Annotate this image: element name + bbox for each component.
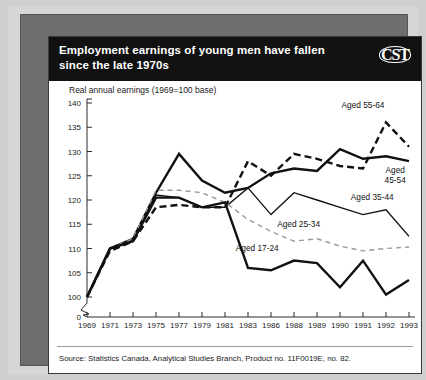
y-tick-label: 100 <box>68 293 82 302</box>
x-tick-label: 1981 <box>216 321 234 330</box>
x-tick-label: 1979 <box>193 321 211 330</box>
x-tick-label: 1977 <box>170 321 188 330</box>
series-annotation: Aged 25-34 <box>277 219 320 229</box>
y-tick-label: 140 <box>68 99 82 108</box>
series-annotation: Aged <box>386 165 406 175</box>
series-annotation: Aged 35-44 <box>351 192 394 202</box>
figure-root: Employment earnings of young men have fa… <box>0 0 426 380</box>
x-tick-label: 1975 <box>147 321 165 330</box>
x-tick-label: 1969 <box>78 321 96 330</box>
x-tick-label: 1993 <box>400 321 418 330</box>
x-tick-label: 1973 <box>124 321 142 330</box>
x-tick-label: 1983 <box>239 321 257 330</box>
y-tick-label: 125 <box>68 172 82 181</box>
x-tick-label: 1988 <box>285 321 303 330</box>
x-tick-label: 1991 <box>354 321 372 330</box>
divider <box>57 346 413 347</box>
plot-area: Real annual earnings (1969=100 base) 100… <box>49 81 421 339</box>
series-line <box>87 122 409 297</box>
x-tick-label: 1992 <box>377 321 395 330</box>
series-annotation: Aged 55-64 <box>342 100 385 110</box>
series-annotation: Aged 17-24 <box>236 243 279 253</box>
x-tick-label: 1989 <box>308 321 326 330</box>
y-tick-label: 105 <box>68 269 82 278</box>
x-tick-label: 1990 <box>331 321 349 330</box>
source-note: Source: Statistics Canada, Analytical St… <box>59 354 351 363</box>
series-annotation: 45-54 <box>385 175 407 185</box>
x-tick-label: 1971 <box>101 321 119 330</box>
line-chart: 1001051101151201251301351400196919711973… <box>49 81 421 339</box>
title-bar: Employment earnings of young men have fa… <box>49 37 421 81</box>
series-line <box>87 149 409 297</box>
y-tick-label: 110 <box>68 245 81 254</box>
y-tick-label: 130 <box>68 148 82 157</box>
logo-text: CST <box>379 46 411 63</box>
page-title: Employment earnings of young men have fa… <box>59 43 339 73</box>
cst-logo: CST <box>379 46 411 64</box>
x-tick-label: 1986 <box>262 321 280 330</box>
y-tick-label: 115 <box>68 220 81 229</box>
chart-card: Employment earnings of young men have fa… <box>48 36 422 374</box>
picture-frame: Employment earnings of young men have fa… <box>20 14 408 366</box>
y-tick-label: 135 <box>68 123 82 132</box>
y-tick-label: 120 <box>68 196 82 205</box>
